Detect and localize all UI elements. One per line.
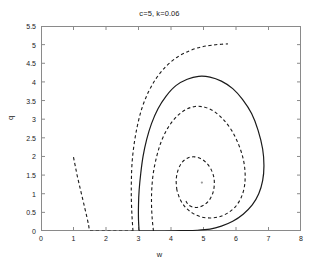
x-tick-label: 8 xyxy=(291,235,311,242)
tick-marks xyxy=(41,26,301,231)
y-tick-label: 2.5 xyxy=(8,134,36,141)
plot-svg xyxy=(41,26,301,231)
plot-area xyxy=(41,26,301,231)
series-inner-spiral-dashed xyxy=(176,157,214,208)
y-tick-label: 1 xyxy=(8,190,36,197)
y-tick-label: 4.5 xyxy=(8,60,36,67)
x-tick-label: 0 xyxy=(31,235,51,242)
y-tick-label: 3 xyxy=(8,116,36,123)
y-tick-label: 5 xyxy=(8,41,36,48)
x-axis-label: w xyxy=(0,250,319,259)
y-tick-label: 4 xyxy=(8,78,36,85)
series-outer-trajectory-left-branch xyxy=(74,157,133,231)
series-outer-trajectory-dashed xyxy=(131,44,228,231)
series-middle-spiral-dashed xyxy=(151,106,245,231)
y-tick-label: 3.5 xyxy=(8,97,36,104)
x-tick-label: 7 xyxy=(259,235,279,242)
y-tick-label: 5.5 xyxy=(8,23,36,30)
x-tick-label: 6 xyxy=(226,235,246,242)
y-tick-label: 1.5 xyxy=(8,172,36,179)
axis-frame xyxy=(42,27,301,231)
figure-container: c=5, k=0.06 q w 00.511.522.533.544.555.5… xyxy=(0,0,319,269)
x-tick-label: 2 xyxy=(96,235,116,242)
annotation-layer xyxy=(201,181,203,183)
y-tick-label: 0.5 xyxy=(8,209,36,216)
axis-box xyxy=(42,27,301,231)
x-tick-label: 5 xyxy=(194,235,214,242)
y-tick-label: 2 xyxy=(8,153,36,160)
y-tick-label: 0 xyxy=(8,228,36,235)
fixed-point-marker xyxy=(201,181,203,183)
x-tick-label: 1 xyxy=(64,235,84,242)
chart-title: c=5, k=0.06 xyxy=(0,9,319,18)
series-layer xyxy=(74,44,264,231)
x-tick-label: 3 xyxy=(129,235,149,242)
x-tick-label: 4 xyxy=(161,235,181,242)
